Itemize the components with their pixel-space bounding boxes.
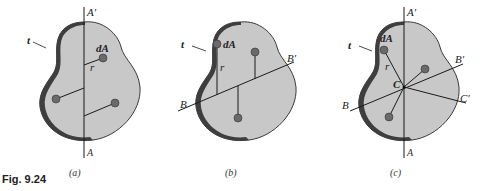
area-element-icon [99,54,107,62]
thickness-label: t [181,38,185,50]
panel-a [40,22,140,141]
axis-label: A′ [86,6,97,18]
axis-label: B [342,99,349,111]
panel-b [196,22,296,141]
axis-label: B′ [455,53,465,65]
figure-canvas: A′ A t dA r (a) B B′ t dA r (b) [0,0,488,191]
figure-caption: Fig. 9.24 [2,173,46,185]
distance-label: r [385,60,390,72]
element-label: dA [96,42,109,54]
distance-label: r [220,61,225,73]
axis-label: C′ [460,92,470,104]
axis-label: B′ [287,52,297,64]
axis-label: A [406,147,414,158]
panel-label: (c) [390,167,402,179]
panel-c [359,22,459,141]
axis-label: B [180,98,187,110]
panel-label: (b) [225,167,237,179]
axis-label: A′ [406,6,417,18]
element-label: dA [223,38,236,50]
thickness-label: t [27,34,31,46]
axis-label: A [86,147,94,158]
thickness-label: t [348,39,352,51]
element-label: dA [380,32,393,44]
panel-label: (a) [69,167,81,179]
centroid-label: C [393,78,401,90]
distance-label: r [90,61,95,73]
centroid-icon [403,86,406,89]
